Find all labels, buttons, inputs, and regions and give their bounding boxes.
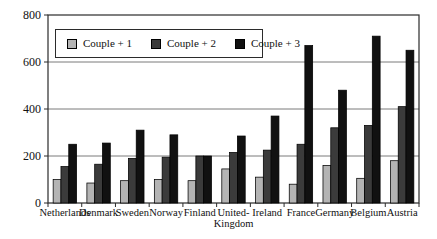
bar-netherlands-series-1 [53,180,61,204]
x-category-label-austria: Austria [387,207,418,218]
x-category-label-sweden: Sweden [116,207,150,218]
bar-germany-series-3 [339,90,347,203]
bar-sweden-series-3 [136,130,144,203]
x-category-label-ireland: Ireland [252,207,282,218]
y-tick-label-800: 800 [23,8,41,22]
legend-label-couple-3: Couple + 3 [251,38,300,49]
bar-netherlands-series-2 [61,167,69,203]
bar-denmark-series-2 [95,164,103,203]
bar-ireland-series-2 [263,150,271,203]
bar-united--series-3 [237,136,245,203]
legend-entry-couple-3: Couple + 3 [235,38,300,49]
y-tick-label-400: 400 [23,102,41,116]
legend-swatch-couple-3-icon [235,39,245,49]
bar-austria-series-2 [398,107,406,203]
bar-denmark-series-1 [87,183,95,203]
bar-belgium-series-1 [357,178,365,203]
x-category-label-finland: Finland [184,207,217,218]
bar-austria-series-1 [390,161,398,203]
x-category-label-belgium: Belgium [350,207,386,218]
bar-france-series-3 [305,46,313,203]
bar-ireland-series-1 [256,177,264,203]
legend-swatch-couple-2-icon [151,39,161,49]
legend-entry-couple-2: Couple + 2 [151,38,216,49]
bar-france-series-1 [289,184,297,203]
y-tick-label-600: 600 [23,55,41,69]
legend-label-couple-1: Couple + 1 [83,38,132,49]
x-category-label-denmark: Denmark [79,207,119,218]
bar-finland-series-1 [188,181,196,203]
x-category-label-france: France [287,207,316,218]
figure-grouped-bar-chart: 0200400600800NetherlandsDenmarkSwedenNor… [0,0,437,239]
bar-germany-series-2 [331,128,339,203]
bar-sweden-series-1 [121,181,129,203]
bar-belgium-series-2 [365,125,373,203]
x-category-label-norway: Norway [149,207,184,218]
bar-germany-series-1 [323,165,331,203]
bar-ireland-series-3 [271,116,279,203]
bar-finland-series-2 [196,156,204,203]
bar-finland-series-3 [204,156,212,203]
bar-sweden-series-2 [128,158,136,203]
bar-united--series-1 [222,169,230,203]
legend-swatch-couple-1-icon [67,39,77,49]
x-category-label-germany: Germany [315,207,355,218]
x-category-label-united-: United-Kingdom [214,207,254,229]
legend-entry-couple-1: Couple + 1 [67,38,132,49]
chart-legend: Couple + 1 Couple + 2 Couple + 3 [55,29,263,58]
bar-france-series-2 [297,144,305,203]
bar-norway-series-1 [154,180,162,204]
bar-netherlands-series-3 [69,144,77,203]
bar-denmark-series-3 [102,143,110,203]
bar-united--series-2 [230,152,238,203]
legend-label-couple-2: Couple + 2 [167,38,216,49]
bar-norway-series-2 [162,157,170,203]
bar-norway-series-3 [170,135,178,203]
bar-austria-series-3 [406,50,414,203]
y-tick-label-200: 200 [23,149,41,163]
bar-belgium-series-3 [372,36,380,203]
